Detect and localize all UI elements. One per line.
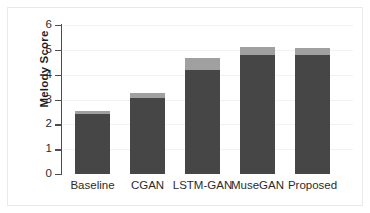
x-axis-tick-labels: BaselineCGANLSTM-GANMuseGANProposed [0,0,370,213]
x-axis-tick-label: Proposed [273,180,353,192]
melody-score-bar-chart: 6543210 Melody Score BaselineCGANLSTM-GA… [0,0,370,213]
